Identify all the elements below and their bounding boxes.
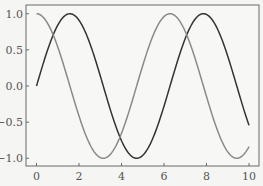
y-tick-label: −0.5	[0, 116, 23, 129]
x-tick-label: 0	[33, 170, 40, 183]
y-tick-label: 0.5	[6, 44, 24, 57]
y-tick-label: 0.0	[6, 80, 24, 93]
line-chart: 0246810 1.00.50.0−0.5−1.0	[0, 0, 263, 186]
x-tick-label: 8	[203, 170, 210, 183]
x-tick-label: 2	[76, 170, 83, 183]
axes-background	[26, 5, 259, 166]
y-tick-label: 1.0	[6, 8, 24, 21]
y-axis-ticks: 1.00.50.0−0.5−1.0	[0, 8, 29, 166]
x-tick-label: 4	[118, 170, 125, 183]
y-tick-label: −1.0	[0, 152, 23, 165]
x-tick-label: 6	[161, 170, 168, 183]
x-tick-label: 10	[242, 170, 256, 183]
